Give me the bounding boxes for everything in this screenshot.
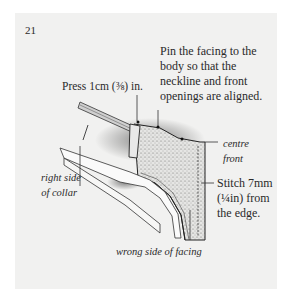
- pin-line-2: body so that the: [160, 59, 262, 74]
- stitch-line-3: the edge.: [217, 206, 273, 221]
- pin-line-3: neckline and front: [160, 74, 262, 89]
- press-annotation: Press 1cm (⅜) in.: [62, 80, 143, 93]
- collar-line-2: of collar: [41, 185, 77, 200]
- collar-line-1: right side: [41, 170, 77, 185]
- centre-front-line-2: front: [223, 151, 249, 166]
- centre-front-label: centre front: [223, 136, 249, 166]
- wrong-side-facing-label: wrong side of facing: [116, 245, 202, 258]
- page-number: 21: [25, 24, 36, 37]
- pin-line-1: Pin the facing to the: [160, 44, 262, 59]
- centre-front-line-1: centre: [223, 136, 249, 151]
- stitch-line-1: Stitch 7mm: [217, 176, 273, 191]
- right-side-collar-label: right side of collar: [41, 170, 77, 200]
- stitch-line-2: (¼in) from: [217, 191, 273, 206]
- pin-annotation: Pin the facing to the body so that the n…: [160, 44, 262, 104]
- pin-line-4: openings are aligned.: [160, 89, 262, 104]
- stitch-annotation: Stitch 7mm (¼in) from the edge.: [217, 176, 273, 221]
